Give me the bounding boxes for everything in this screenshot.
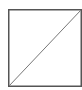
diagonal-square-graphic [8,9,82,87]
diagonal-square-icon [8,9,82,87]
